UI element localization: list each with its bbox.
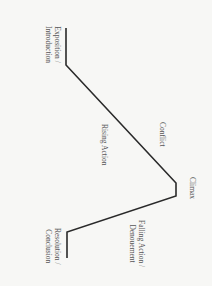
resolution-label-line2: Conclusion xyxy=(44,228,53,264)
falling-label-line1: Falling Action / xyxy=(137,220,146,267)
conflict-label: Conflict xyxy=(158,122,167,147)
rising-action-text: Rising Action xyxy=(100,124,109,165)
resolution-label-line1: Resolution / xyxy=(53,228,62,264)
exposition-label: Exposition / Introduction xyxy=(44,26,62,63)
conflict-text: Conflict xyxy=(158,122,167,147)
falling-action-label: Falling Action / Denouement xyxy=(128,220,146,267)
exposition-label-line2: Introduction xyxy=(44,26,53,63)
exposition-label-line1: Exposition / xyxy=(53,26,62,63)
resolution-label: Resolution / Conclusion xyxy=(44,228,62,264)
falling-label-line2: Denouement xyxy=(128,220,137,267)
climax-label: Climax xyxy=(188,177,197,199)
climax-text: Climax xyxy=(188,177,197,199)
rising-action-label: Rising Action xyxy=(100,124,109,165)
